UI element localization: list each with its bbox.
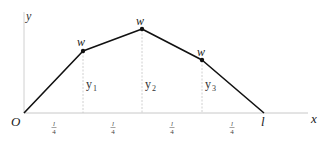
segment-fraction-4: l 4: [230, 120, 235, 136]
origin-label: O: [11, 114, 21, 129]
segment-fraction-2: l 4: [111, 120, 116, 136]
x-axis-label: x: [310, 111, 317, 126]
svg-text:4: 4: [111, 128, 115, 136]
end-label: l: [261, 114, 265, 129]
load-label-2: w: [136, 14, 144, 28]
svg-text:4: 4: [170, 128, 174, 136]
height-label-1: y1: [86, 77, 97, 93]
height-label-2: y2: [145, 77, 156, 93]
string-deflection-diagram: w w w y1 y2 y3 y O l x l 4 l 4 l 4 l 4: [0, 0, 325, 141]
segment-fraction-1: l 4: [52, 120, 57, 136]
svg-text:4: 4: [230, 128, 234, 136]
segment-fraction-3: l 4: [170, 120, 175, 136]
load-label-1: w: [77, 35, 85, 49]
deflected-string: [24, 29, 264, 113]
load-label-3: w: [197, 45, 205, 59]
svg-text:4: 4: [52, 128, 56, 136]
load-point-1: [81, 49, 85, 53]
height-label-3: y3: [205, 77, 216, 93]
y-axis-label: y: [25, 9, 32, 23]
